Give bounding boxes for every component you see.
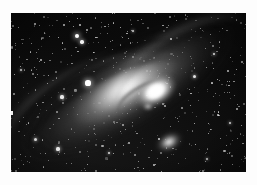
page-canvas bbox=[0, 0, 257, 185]
andromeda-galaxy-photo bbox=[11, 13, 246, 172]
plate-vignette bbox=[11, 13, 246, 172]
plate-edge-nick bbox=[11, 111, 13, 115]
